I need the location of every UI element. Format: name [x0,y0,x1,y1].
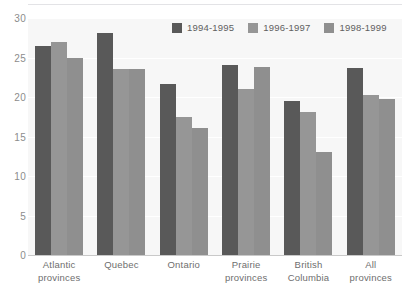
bar-group [215,18,277,255]
bar [192,128,208,255]
x-axis-label-line: Columbia [277,272,339,285]
legend-label: 1996-1997 [263,22,310,33]
bar [254,67,270,255]
bar [160,84,176,255]
legend-item: 1998-1999 [324,22,386,33]
x-axis-baseline [28,255,402,256]
y-axis-tick-15: 15 [2,131,26,142]
x-axis-label-line: Ontario [153,259,215,272]
chart-legend: 1994-19951996-19971998-1999 [172,22,387,33]
y-axis-tick-10: 10 [2,171,26,182]
x-axis-label-line: provinces [28,272,90,285]
y-axis-tick-25: 25 [2,52,26,63]
bar [363,95,379,255]
x-axis-label: Allprovinces [340,259,402,284]
top-rule-divider [28,4,402,5]
legend-swatch-icon [324,23,334,33]
bar [113,69,129,255]
legend-label: 1998-1999 [339,22,386,33]
x-axis-label: Prairieprovinces [215,259,277,284]
y-axis-tick-5: 5 [2,210,26,221]
bar-group [340,18,402,255]
bar [284,101,300,255]
bar [176,117,192,255]
bar [222,65,238,255]
x-axis-label: Quebec [90,259,152,272]
bar [300,112,316,255]
bar-group [153,18,215,255]
bar [51,42,67,255]
bar-group [90,18,152,255]
x-axis-label: Ontario [153,259,215,272]
legend-item: 1996-1997 [248,22,310,33]
bar-series-container [28,18,402,255]
x-axis-labels: AtlanticprovincesQuebecOntarioPrairiepro… [28,259,402,293]
bar [316,152,332,255]
bar [97,33,113,255]
y-axis-tick-20: 20 [2,92,26,103]
x-axis-label: BritishColumbia [277,259,339,284]
bar-chart: 051015202530 AtlanticprovincesQuebecOnta… [0,0,404,293]
legend-swatch-icon [248,23,258,33]
legend-item: 1994-1995 [172,22,234,33]
y-axis-tick-30: 30 [2,13,26,24]
bar [379,99,395,255]
legend-swatch-icon [172,23,182,33]
x-axis-label-line: All [340,259,402,272]
x-axis-label-line: Atlantic [28,259,90,272]
bar [67,58,83,256]
x-axis-label-line: Prairie [215,259,277,272]
y-axis-tick-0: 0 [2,250,26,261]
bar [129,69,145,255]
bar [238,89,254,255]
x-axis-label-line: Quebec [90,259,152,272]
bar-group [28,18,90,255]
x-axis-label-line: provinces [215,272,277,285]
x-axis-label: Atlanticprovinces [28,259,90,284]
bar-group [277,18,339,255]
x-axis-label-line: provinces [340,272,402,285]
bar [347,68,363,255]
x-axis-label-line: British [277,259,339,272]
bar [35,46,51,255]
legend-label: 1994-1995 [187,22,234,33]
